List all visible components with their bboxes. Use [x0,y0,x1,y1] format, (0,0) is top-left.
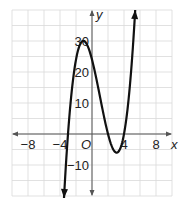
y-axis-up-arrow-icon [90,10,95,16]
x-tick-label: −4 [53,137,68,152]
y-tick-label: 10 [75,96,89,111]
y-axis-down-arrow-icon [90,190,95,196]
origin-label: O [81,137,91,152]
curve-down-arrow-icon [61,189,68,198]
curve-up-arrow-icon [131,10,138,19]
y-tick-label: −10 [67,158,89,173]
x-tick-label: 8 [152,137,159,152]
cubic-function-graph: −8−448302010−10 x y O [0,0,181,203]
x-axis-right-arrow-icon [166,132,172,137]
y-tick-label: 20 [75,65,89,80]
x-axis-label: x [170,137,178,152]
x-tick-label: −8 [21,137,36,152]
y-axis-label: y [95,7,104,22]
x-axis-left-arrow-icon [12,132,18,137]
